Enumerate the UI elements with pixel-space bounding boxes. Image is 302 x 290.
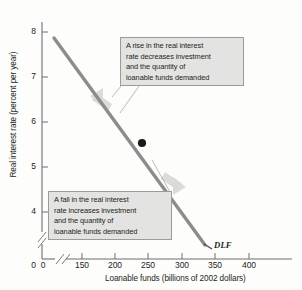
x-tick-label-200: 200	[103, 260, 127, 270]
x-tick-label-350: 350	[203, 260, 227, 270]
fall-callout-box: A fall in the real interest rate increas…	[48, 191, 172, 240]
y-tick-label-5: 5	[20, 161, 36, 171]
x-tick-label-150: 150	[70, 260, 94, 270]
fall-callout-line-3: and the quantity of	[54, 216, 167, 227]
dlf-curve-label: DLF	[214, 240, 232, 250]
rise-callout-box: A rise in the real interest rate decreas…	[120, 37, 244, 86]
y-tick-label-7: 7	[20, 71, 36, 81]
x-tick-label-250: 250	[136, 260, 160, 270]
x-tick-label-400: 400	[237, 260, 261, 270]
x-axis-title: Loanable funds (billions of 2002 dollars…	[105, 274, 246, 283]
fall-callout-line-2: rate increases investment	[54, 206, 167, 217]
y-axis-ticks	[42, 32, 48, 212]
fall-callout-line-4: loanable funds demanded	[54, 227, 167, 238]
y-tick-label-8: 8	[20, 26, 36, 36]
equilibrium-point-marker	[138, 139, 146, 147]
x-tick-label-0: 0	[31, 260, 55, 270]
x-axis-ticks	[82, 253, 249, 259]
x-tick-label-300: 300	[170, 260, 194, 270]
y-tick-label-6: 6	[20, 116, 36, 126]
loanable-funds-demand-chart: Real interest rate (percent per year) Lo…	[0, 0, 302, 290]
rise-callout-line-4: loanable funds demanded	[126, 73, 239, 84]
rise-callout-line-1: A rise in the real interest	[126, 41, 239, 52]
y-axis-title: Real interest rate (percent per year)	[9, 30, 18, 200]
rise-callout-line-3: and the quantity of	[126, 62, 239, 73]
rise-callout-leader-line-2	[120, 86, 139, 113]
fall-callout-line-1: A fall in the real interest	[54, 195, 167, 206]
y-tick-label-4: 4	[20, 206, 36, 216]
rise-callout-leader-line	[112, 85, 122, 97]
rise-callout-line-2: rate decreases investment	[126, 52, 239, 63]
